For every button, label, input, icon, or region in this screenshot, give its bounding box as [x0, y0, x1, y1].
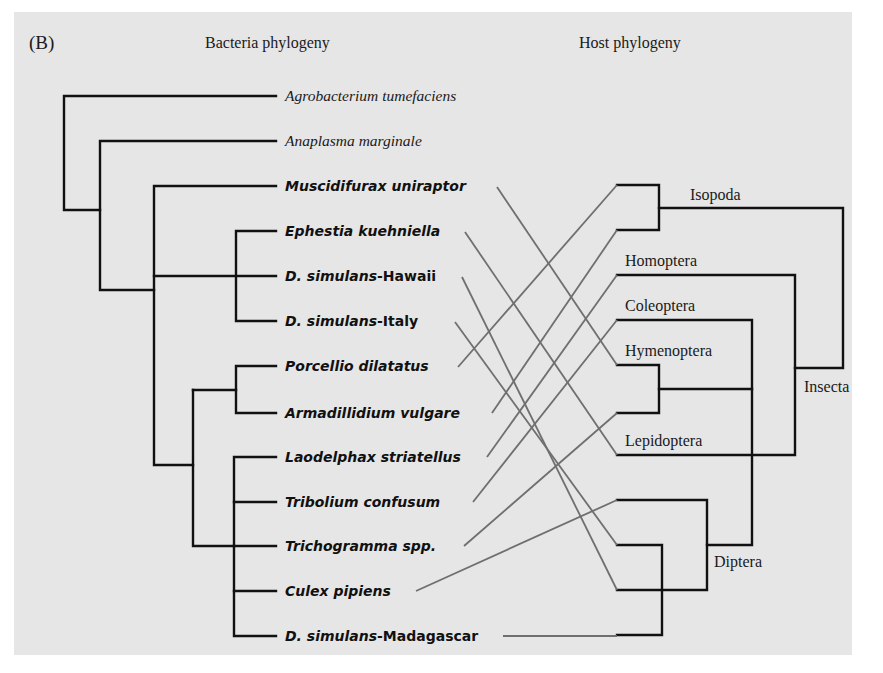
panel-label: (B) — [29, 32, 54, 54]
branch-isopod-symbionts — [236, 366, 276, 413]
tip-ephestia: Ephestia kuehniella — [285, 223, 440, 239]
host-label-homoptera: Homoptera — [625, 252, 697, 270]
tip-laodelphax: Laodelphax striatellus — [285, 449, 461, 465]
tanglegram-diagram: (B) Bacteria phylogeny Host phylogeny Ag… — [0, 0, 883, 673]
tip-agrobacterium: Agrobacterium tumefaciens — [284, 87, 456, 104]
host-label-insecta: Insecta — [804, 378, 849, 395]
connector-trichogramma-hymenoptera — [464, 413, 617, 546]
tip-dsimulans-madagascar: D. simulans-Madagascar — [285, 628, 478, 644]
connector-ephestia-lepidoptera — [465, 232, 617, 455]
tip-trichogramma: Trichogramma spp. — [285, 538, 436, 554]
host-branch-hymenoptera — [617, 365, 659, 413]
host-label-hymenoptera: Hymenoptera — [625, 342, 712, 360]
host-label-coleoptera: Coleoptera — [625, 297, 695, 315]
host-branch-isopoda — [617, 185, 659, 230]
host-label-diptera: Diptera — [714, 553, 762, 571]
branch-anaplasma — [100, 141, 276, 290]
branch-lower-clade — [193, 390, 234, 546]
tip-dsimulans-italy: D. simulans-Italy — [285, 313, 418, 329]
bacteria-tree — [64, 96, 276, 636]
bacteria-phylogeny-header: Bacteria phylogeny — [205, 34, 330, 52]
branch-muscidifurax — [154, 186, 276, 465]
tip-anaplasma: Anaplasma marginale — [284, 132, 422, 149]
branch-root — [64, 96, 276, 210]
tip-porcellio: Porcellio dilatatus — [285, 358, 429, 374]
tip-culex: Culex pipiens — [285, 583, 391, 599]
branch-polytomy-tips — [234, 502, 276, 591]
tip-dsimulans-hawaii: D. simulans-Hawaii — [285, 268, 436, 284]
host-phylogeny-header: Host phylogeny — [579, 34, 681, 52]
connector-muscidifurax-hymenoptera — [497, 187, 617, 365]
host-label-lepidoptera: Lepidoptera — [625, 432, 702, 450]
tip-armadillidium: Armadillidium vulgare — [284, 405, 460, 421]
connector-culex-diptera — [416, 500, 617, 591]
host-label-isopoda: Isopoda — [690, 186, 741, 204]
tip-tribolium: Tribolium confusum — [285, 494, 440, 510]
tip-muscidifurax: Muscidifurax uniraptor — [285, 178, 467, 194]
bacteria-tip-labels: Agrobacterium tumefaciens Anaplasma marg… — [284, 87, 478, 644]
